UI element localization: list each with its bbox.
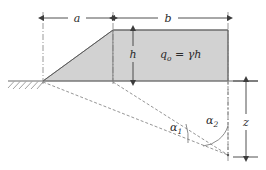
dimension-a-label: a — [74, 12, 81, 25]
surcharge-load-label-group: qo = γh — [160, 48, 201, 63]
depth-point-marker — [227, 154, 229, 156]
dimension-a-group: a — [44, 12, 112, 25]
surcharge-load-label: qo = γh — [160, 48, 201, 63]
angle-1-subscript: 1 — [177, 127, 182, 136]
influence-lines-group — [43, 82, 228, 155]
embankment-load-diagram: a b h z qo = γh — [0, 0, 266, 170]
angle-1-label: α1 — [170, 121, 182, 136]
dimension-z-group: z — [233, 81, 258, 157]
angle-2-subscript: 2 — [212, 120, 218, 129]
dimension-z-label: z — [242, 116, 249, 129]
load-equation: = γh — [172, 48, 202, 61]
load-symbol: q — [160, 48, 167, 61]
angle-2-label: α2 — [206, 114, 218, 129]
diagram-canvas: a b h z qo = γh — [0, 0, 266, 170]
dimension-h-label: h — [129, 48, 136, 61]
angle-2-arc-icon — [203, 126, 228, 146]
angle-1-arc-icon — [186, 124, 188, 143]
dimension-b-group: b — [115, 12, 227, 25]
dimension-b-label: b — [164, 12, 171, 25]
ground-hatching-icon — [8, 82, 43, 90]
influence-line-from-apex — [43, 82, 228, 155]
